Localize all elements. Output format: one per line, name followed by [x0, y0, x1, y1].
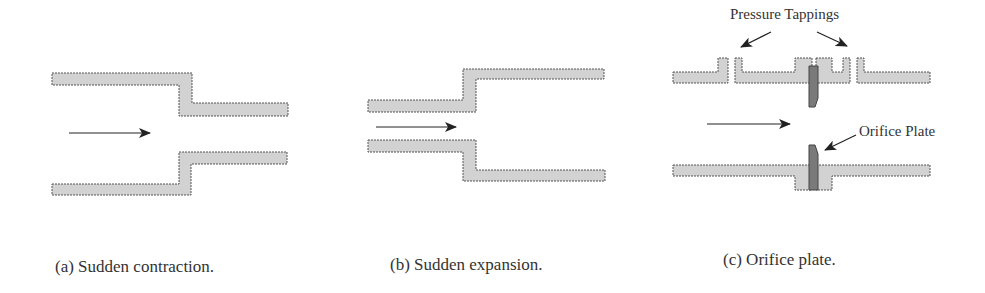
orifice-plate-lower [809, 145, 818, 190]
pressure-tapping-arrow-left [741, 32, 771, 47]
panel-orifice-plate: Pressure Tappings Orifice Plate (c) Orif… [673, 6, 936, 269]
caption-b: (b) Sudden expansion. [390, 255, 543, 274]
flow-fittings-diagram: (a) Sudden contraction. (b) Sudden expan… [0, 0, 985, 293]
upper-wall-upstream-flange [735, 58, 812, 83]
pressure-tapping-arrow-right [817, 32, 847, 46]
upper-wall-downstream-flange [816, 58, 850, 83]
lower-wall-downstream [816, 165, 930, 190]
upper-wall-outlet-segment [857, 58, 930, 83]
panel-sudden-contraction: (a) Sudden contraction. [52, 73, 288, 276]
orifice-plate-upper [809, 66, 818, 107]
pressure-tappings-label: Pressure Tappings [730, 6, 839, 22]
caption-c: (c) Orifice plate. [723, 250, 836, 269]
upper-pipe-wall [368, 69, 604, 112]
orifice-plate-arrow [825, 135, 856, 150]
caption-a: (a) Sudden contraction. [55, 257, 214, 276]
panel-sudden-expansion: (b) Sudden expansion. [368, 69, 605, 274]
upper-wall-inlet-segment [673, 58, 728, 83]
orifice-plate-label: Orifice Plate [859, 123, 936, 139]
lower-wall-upstream [673, 165, 812, 190]
lower-pipe-wall [368, 140, 605, 181]
lower-pipe-wall [52, 152, 287, 195]
upper-pipe-wall [52, 73, 288, 116]
